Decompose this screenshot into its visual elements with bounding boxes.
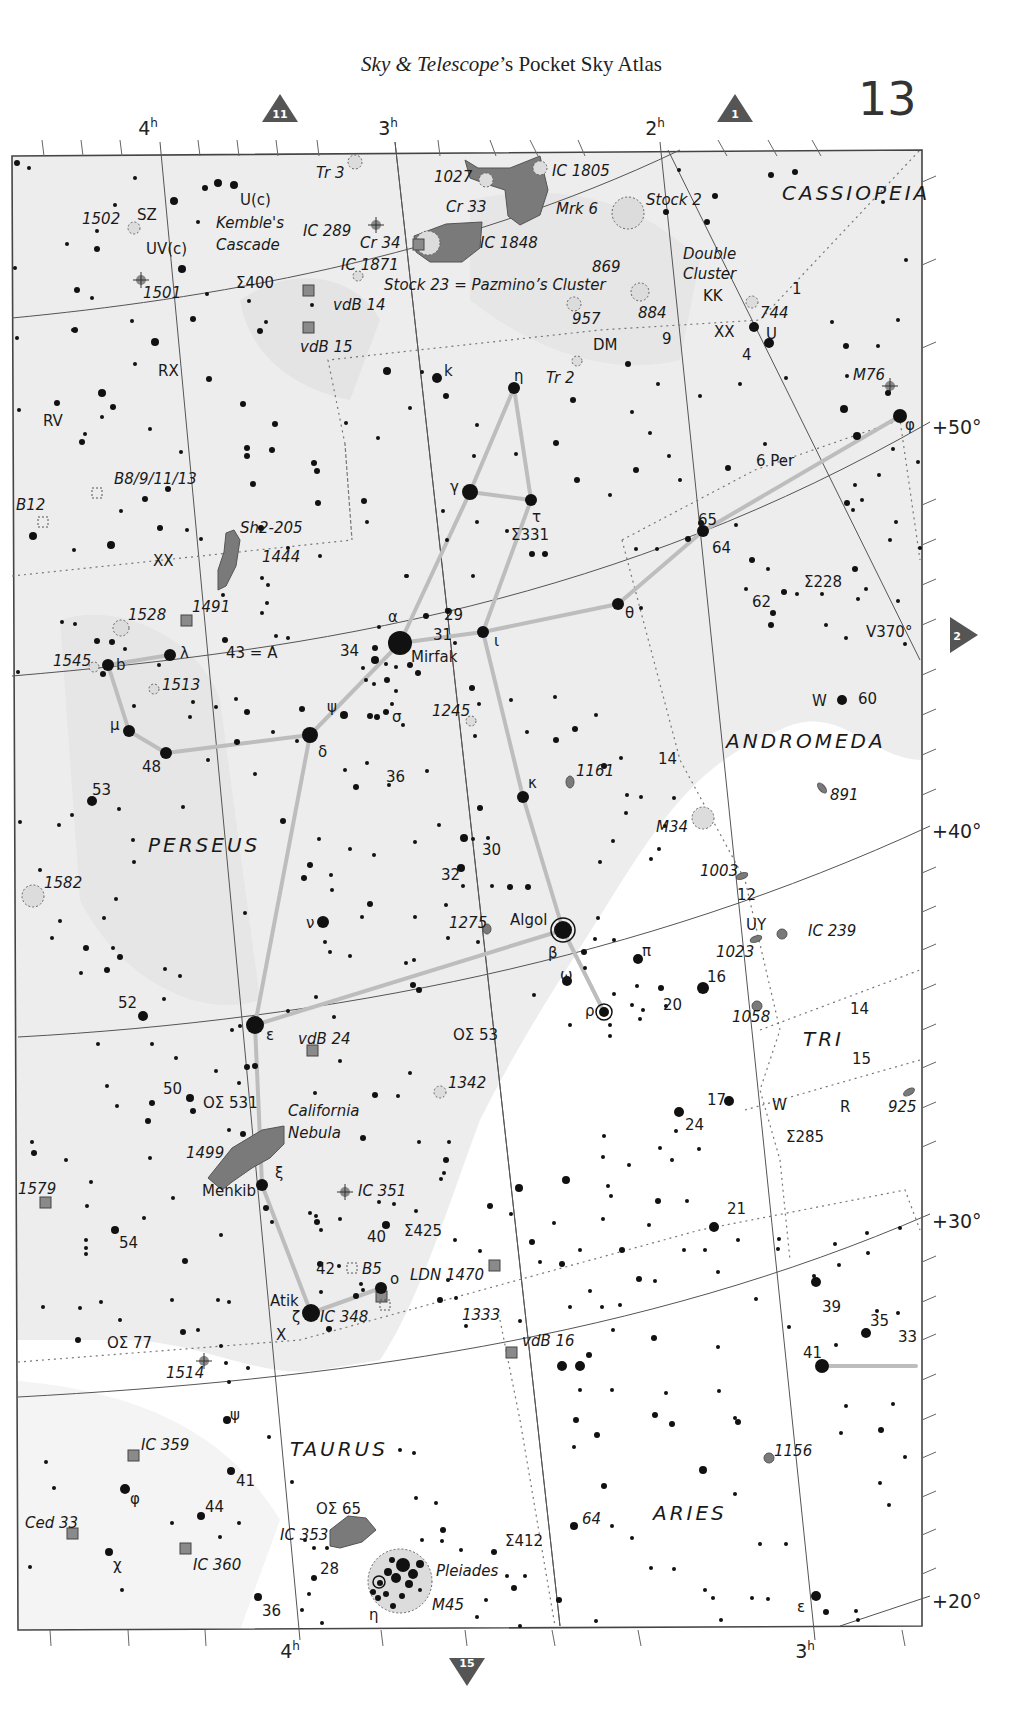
object-label-tr-3: Tr 3	[316, 164, 344, 182]
object-label-k: k	[444, 362, 453, 380]
object-label-symbol: ε	[797, 1598, 805, 1616]
nav-arrow-page-11[interactable]: 11	[262, 94, 298, 122]
star-phi-tau	[120, 1484, 130, 1494]
star-o	[375, 1282, 387, 1294]
object-label-60: 60	[858, 690, 877, 708]
star-algol	[554, 921, 572, 939]
object-label-21: 21	[727, 1200, 746, 1218]
object-label-symbol: α	[388, 608, 398, 626]
star-delta	[302, 727, 318, 743]
object-label-28: 28	[320, 1560, 339, 1578]
object-label-california: California	[288, 1102, 360, 1120]
star-lambda	[164, 649, 176, 661]
ra-bottom-label: 3h	[795, 1639, 815, 1662]
object-label-52: 52	[118, 994, 137, 1012]
star-mu	[123, 725, 135, 737]
object-label-symbol: σ	[392, 708, 402, 726]
object-label-symbol: ζ	[292, 1308, 300, 1326]
constellation-tri: TRI	[803, 1027, 844, 1051]
object-label-symbol: ι	[494, 632, 499, 650]
object-label-14: 14	[658, 750, 677, 768]
ra-top-label: 3h	[378, 116, 398, 139]
object-label-w: W	[772, 1096, 787, 1114]
ra-hour-superscript: h	[150, 116, 158, 130]
object-label-1027: 1027	[434, 168, 473, 186]
nav-arrow-page-1[interactable]: 1	[717, 94, 753, 122]
constellation-aries: ARIES	[651, 1501, 727, 1525]
object-label-ic-360: IC 360	[193, 1556, 241, 1574]
object-label-symbol: ξ	[275, 1164, 283, 1182]
star-epsilon	[246, 1016, 264, 1034]
star-gamma	[462, 484, 478, 500]
object-label-b12: B12	[16, 496, 45, 514]
object-label-kk: KK	[703, 287, 724, 305]
ngc891-galaxy	[816, 781, 828, 794]
ra-bottom-label: 4h	[280, 1639, 300, 1662]
object-label-ldn-1470: LDN 1470	[410, 1266, 484, 1284]
object-label-20: 20	[663, 996, 682, 1014]
object-label-mrk-6: Mrk 6	[556, 200, 598, 218]
constellation-taurus: TAURUS	[290, 1437, 388, 1461]
object-label-9: 9	[662, 330, 672, 348]
object-label-1342: 1342	[448, 1074, 486, 1092]
ic353-nebula	[330, 1516, 376, 1548]
ra-top-label: 4h	[138, 116, 158, 139]
object-label-24: 24	[685, 1116, 704, 1134]
object-label-53: 53	[92, 781, 111, 799]
object-label-symbol: ν	[306, 914, 314, 932]
object-label-sz: SZ	[137, 206, 157, 224]
object-label-42: 42	[316, 1260, 335, 1278]
object-label-uy: UY	[746, 916, 767, 934]
nav-arrow-page-2[interactable]: 2	[950, 617, 978, 653]
object-label-ic-351: IC 351	[358, 1182, 406, 1200]
star-k	[432, 373, 442, 383]
dec-label: +20°	[932, 1590, 982, 1612]
object-label-o-77: OΣ 77	[107, 1334, 152, 1352]
object-label-ic-353: IC 353	[280, 1526, 328, 1544]
object-label-957: 957	[572, 310, 601, 328]
object-label-rv: RV	[43, 412, 64, 430]
object-label-1333: 1333	[462, 1306, 500, 1324]
object-label-1245: 1245	[432, 702, 470, 720]
object-label-35: 35	[870, 1312, 889, 1330]
object-label-39: 39	[822, 1298, 841, 1316]
star-48	[160, 747, 172, 759]
ra-hour-superscript: h	[657, 116, 665, 130]
object-label-nebula: Nebula	[288, 1124, 341, 1142]
star-atik	[302, 1304, 320, 1322]
object-label-17: 17	[707, 1091, 726, 1109]
object-label-xx: XX	[153, 552, 174, 570]
object-label-sh2-205: Sh2-205	[240, 519, 303, 537]
object-label-1058: 1058	[732, 1008, 770, 1026]
object-label-cascade: Cascade	[216, 236, 280, 254]
object-label-48: 48	[142, 758, 161, 776]
nav-arrow-label: 2	[953, 630, 961, 643]
object-label-41: 41	[803, 1344, 822, 1362]
object-label-1003: 1003	[700, 862, 738, 880]
object-label-r: R	[840, 1098, 850, 1116]
dec-label: +50°	[932, 416, 982, 438]
object-label-b: b	[116, 656, 126, 674]
object-label-tr-2: Tr 2	[546, 369, 574, 387]
object-label-o-65: OΣ 65	[316, 1500, 361, 1518]
object-label-symbol: β	[548, 944, 558, 962]
nav-arrow-page-15[interactable]: 15	[449, 1657, 485, 1686]
object-label-stock-2: Stock 2	[646, 191, 702, 209]
star-bright-25	[575, 1361, 585, 1371]
object-label-symbol: δ	[318, 743, 327, 761]
object-label-891: 891	[830, 786, 859, 804]
object-label-400: Σ400	[236, 274, 274, 292]
object-label-30: 30	[482, 841, 501, 859]
object-label-1502: 1502	[82, 210, 120, 228]
object-label-425: Σ425	[404, 1222, 442, 1240]
object-label-228: Σ228	[804, 573, 842, 591]
object-label-menkib: Menkib	[202, 1182, 256, 1200]
object-label-kemble-s: Kemble's	[216, 214, 284, 232]
object-label-ic-1848: IC 1848	[480, 234, 538, 252]
object-label-mirfak: Mirfak	[411, 648, 458, 666]
object-label-w: W	[812, 692, 827, 710]
star-60	[837, 695, 847, 705]
object-label-symbol: ρ	[585, 1002, 595, 1020]
object-label-ced-33: Ced 33	[25, 1514, 78, 1532]
object-label-1545: 1545	[53, 652, 91, 670]
